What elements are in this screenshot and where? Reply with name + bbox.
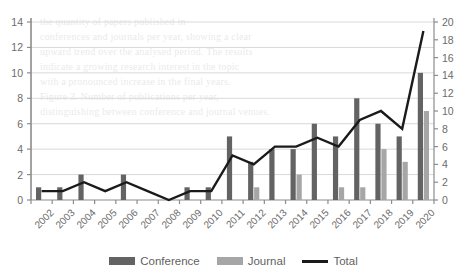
left-axis-tick-label: 8 [0,92,23,104]
bar-conference-2019 [397,136,402,200]
bar-conference-2013 [269,149,274,200]
left-axis-tick-label: 10 [0,67,23,79]
right-axis-tick-label: 8 [442,123,448,135]
bar-conference-2018 [375,124,380,200]
bar-conference-2003 [57,187,62,200]
left-axis-tick-label: 4 [0,143,23,155]
legend-item-journal[interactable]: Journal [217,255,286,267]
legend-swatch-conference-icon [109,257,135,265]
left-axis-tick-label: 12 [0,41,23,53]
right-axis-tick-label: 0 [442,194,448,206]
left-axis-tick-label: 6 [0,118,23,130]
legend-item-total[interactable]: Total [302,255,357,267]
right-axis-tick-label: 4 [442,158,448,170]
left-axis-tick-label: 0 [0,194,23,206]
legend-swatch-journal-icon [217,257,243,265]
chart-legend: ConferenceJournalTotal [0,255,467,267]
legend-item-conference[interactable]: Conference [109,255,199,267]
bar-conference-2011 [227,136,232,200]
legend-swatch-total-icon [302,260,328,263]
bar-conference-2020 [418,73,423,200]
left-axis-tick-label: 2 [0,169,23,181]
legend-label: Journal [248,255,286,267]
bar-journal-2016 [339,187,344,200]
right-axis-tick-label: 10 [442,105,454,117]
bar-conference-2015 [312,124,317,200]
right-axis-tick-label: 18 [442,34,454,46]
bar-conference-2014 [291,149,296,200]
bar-journal-2017 [360,187,365,200]
bar-journal-2018 [381,149,386,200]
right-axis-tick-label: 6 [442,141,448,153]
bar-conference-2006 [121,175,126,200]
bar-conference-2010 [206,187,211,200]
bar-journal-2020 [424,111,429,200]
bar-conference-2017 [354,98,359,200]
right-axis-tick-label: 20 [442,16,454,28]
right-axis-tick-label: 16 [442,52,454,64]
bar-conference-2002 [36,187,41,200]
publications-per-year-chart: 02468101214 02468101214161820 2002200320… [0,0,467,273]
bar-journal-2019 [403,162,408,200]
legend-label: Conference [140,255,199,267]
right-axis-tick-label: 2 [442,176,448,188]
legend-label: Total [333,255,357,267]
bar-journal-2012 [254,187,259,200]
bar-conference-2004 [78,175,83,200]
right-axis-tick-label: 12 [442,87,454,99]
bar-journal-2014 [297,175,302,200]
bar-conference-2012 [248,162,253,200]
left-axis-tick-label: 14 [0,16,23,28]
right-axis-tick-label: 14 [442,69,454,81]
